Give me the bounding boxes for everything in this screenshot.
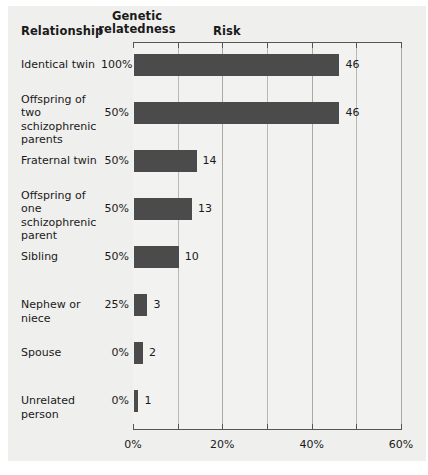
row-label-line: schizophrenic: [21, 120, 101, 134]
row-genetic-relatedness-0: 100%: [101, 58, 129, 71]
tick-bottom-30: [267, 424, 268, 430]
genetic-relatedness-line-2: relatedness: [96, 23, 178, 36]
bar-value-label-1: 46: [345, 106, 359, 119]
column-header-genetic-relatedness: Genetic relatedness: [96, 10, 178, 36]
row-label-line: Fraternal twin: [21, 154, 101, 168]
gridline-30: [267, 42, 268, 430]
row-label-line: Spouse: [21, 346, 101, 360]
row-label-line: Offspring of two: [21, 93, 101, 120]
row-label-5: Nephew or niece: [21, 298, 101, 325]
gridline-60: [401, 42, 402, 430]
row-genetic-relatedness-2: 50%: [101, 154, 129, 167]
tick-top-60: [401, 42, 402, 48]
bar-row-6: [134, 342, 143, 364]
row-label-line: Nephew or niece: [21, 298, 101, 325]
tick-bottom-50: [356, 424, 357, 430]
row-label-6: Spouse: [21, 346, 101, 360]
tick-bottom-20: [222, 424, 223, 430]
row-label-2: Fraternal twin: [21, 154, 101, 168]
bar-row-5: [134, 294, 147, 316]
row-label-4: Sibling: [21, 250, 101, 264]
column-header-risk: Risk: [213, 24, 241, 38]
row-genetic-relatedness-1: 50%: [101, 106, 129, 119]
tick-top-10: [178, 42, 179, 48]
row-label-line: Unrelated person: [21, 394, 101, 421]
row-genetic-relatedness-3: 50%: [101, 202, 129, 215]
bar-value-label-4: 10: [185, 250, 199, 263]
row-label-line: Sibling: [21, 250, 101, 264]
bar-row-1: [134, 102, 339, 124]
row-label-line: parents: [21, 133, 101, 147]
row-genetic-relatedness-4: 50%: [101, 250, 129, 263]
tick-top-20: [222, 42, 223, 48]
x-tick-label-0%: 0%: [113, 438, 153, 451]
bar-row-3: [134, 198, 192, 220]
bar-value-label-7: 1: [144, 394, 151, 407]
row-genetic-relatedness-7: 0%: [101, 394, 129, 407]
row-label-7: Unrelated person: [21, 394, 101, 421]
tick-top-30: [267, 42, 268, 48]
tick-bottom-40: [312, 424, 313, 430]
row-genetic-relatedness-6: 0%: [101, 346, 129, 359]
row-label-line: Offspring of one: [21, 189, 101, 216]
row-label-1: Offspring of twoschizophrenicparents: [21, 93, 101, 147]
bar-row-4: [134, 246, 179, 268]
tick-bottom-10: [178, 424, 179, 430]
bar-row-0: [134, 54, 339, 76]
row-label-line: Identical twin: [21, 58, 101, 72]
bar-row-2: [134, 150, 197, 172]
tick-top-50: [356, 42, 357, 48]
row-label-0: Identical twin: [21, 58, 101, 72]
tick-bottom-60: [401, 424, 402, 430]
bar-value-label-0: 46: [345, 58, 359, 71]
table-header: Relationship Genetic relatedness Risk: [8, 6, 426, 38]
x-tick-label-60%: 60%: [381, 438, 421, 451]
tick-top-40: [312, 42, 313, 48]
bar-row-7: [134, 390, 138, 412]
gridline-40: [312, 42, 313, 430]
gridline-20: [222, 42, 223, 430]
x-tick-label-40%: 40%: [292, 438, 332, 451]
bar-value-label-2: 14: [203, 154, 217, 167]
gridline-50: [356, 42, 357, 430]
column-header-relationship: Relationship: [21, 24, 103, 38]
figure-panel: Relationship Genetic relatedness Risk Id…: [8, 6, 426, 461]
bar-value-label-5: 3: [153, 298, 160, 311]
bar-value-label-3: 13: [198, 202, 212, 215]
row-label-line: schizophrenic: [21, 216, 101, 230]
x-tick-label-20%: 20%: [202, 438, 242, 451]
row-label-line: parent: [21, 229, 101, 243]
gridline-10: [178, 42, 179, 430]
tick-bottom-0: [133, 424, 134, 430]
tick-top-0: [133, 42, 134, 48]
row-label-3: Offspring of oneschizophrenicparent: [21, 189, 101, 243]
chart-screenshot: Relationship Genetic relatedness Risk Id…: [0, 0, 428, 475]
plot-area: 4646141310321: [133, 42, 401, 430]
row-genetic-relatedness-5: 25%: [101, 298, 129, 311]
bar-value-label-6: 2: [149, 346, 156, 359]
